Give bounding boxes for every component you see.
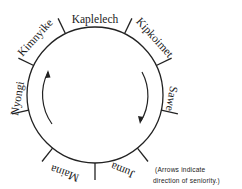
cycle-circle	[27, 27, 163, 163]
arrowhead-left-icon	[46, 70, 51, 78]
age-set-cycle-diagram: Kaplelech Kipkoimet Sawe Juma Maina Nyon…	[0, 0, 242, 189]
segment-label-kimnyike: Kimnyike	[15, 16, 55, 59]
tick-kaplelech-kipkoimet	[156, 58, 171, 65]
segment-label-juma: Juma	[109, 161, 136, 181]
tick-nyongi-kimnyike	[18, 58, 33, 65]
tick-sawe-juma	[137, 148, 148, 161]
note-line-1: (Arrows indicate	[153, 164, 242, 175]
segment-label-kaplelech: Kaplelech	[72, 13, 119, 26]
tick-kimnyike-kaplelech	[58, 18, 65, 33]
segment-label-maina: Maina	[49, 163, 81, 184]
arrow-right-down-icon	[141, 72, 148, 121]
segment-label-sawe: Sawe	[164, 85, 180, 112]
tick-kimnyike-kaplelech-right	[125, 18, 132, 33]
arrowhead-right-icon	[138, 116, 144, 124]
segment-label-kipkoimet: Kipkoimet	[133, 15, 176, 61]
arrow-left-up-icon	[43, 72, 52, 124]
tick-maina-lower	[42, 148, 53, 161]
legend-note: (Arrows indicate direction of seniority.…	[153, 164, 242, 186]
note-line-2: direction of seniority.)	[153, 175, 242, 186]
